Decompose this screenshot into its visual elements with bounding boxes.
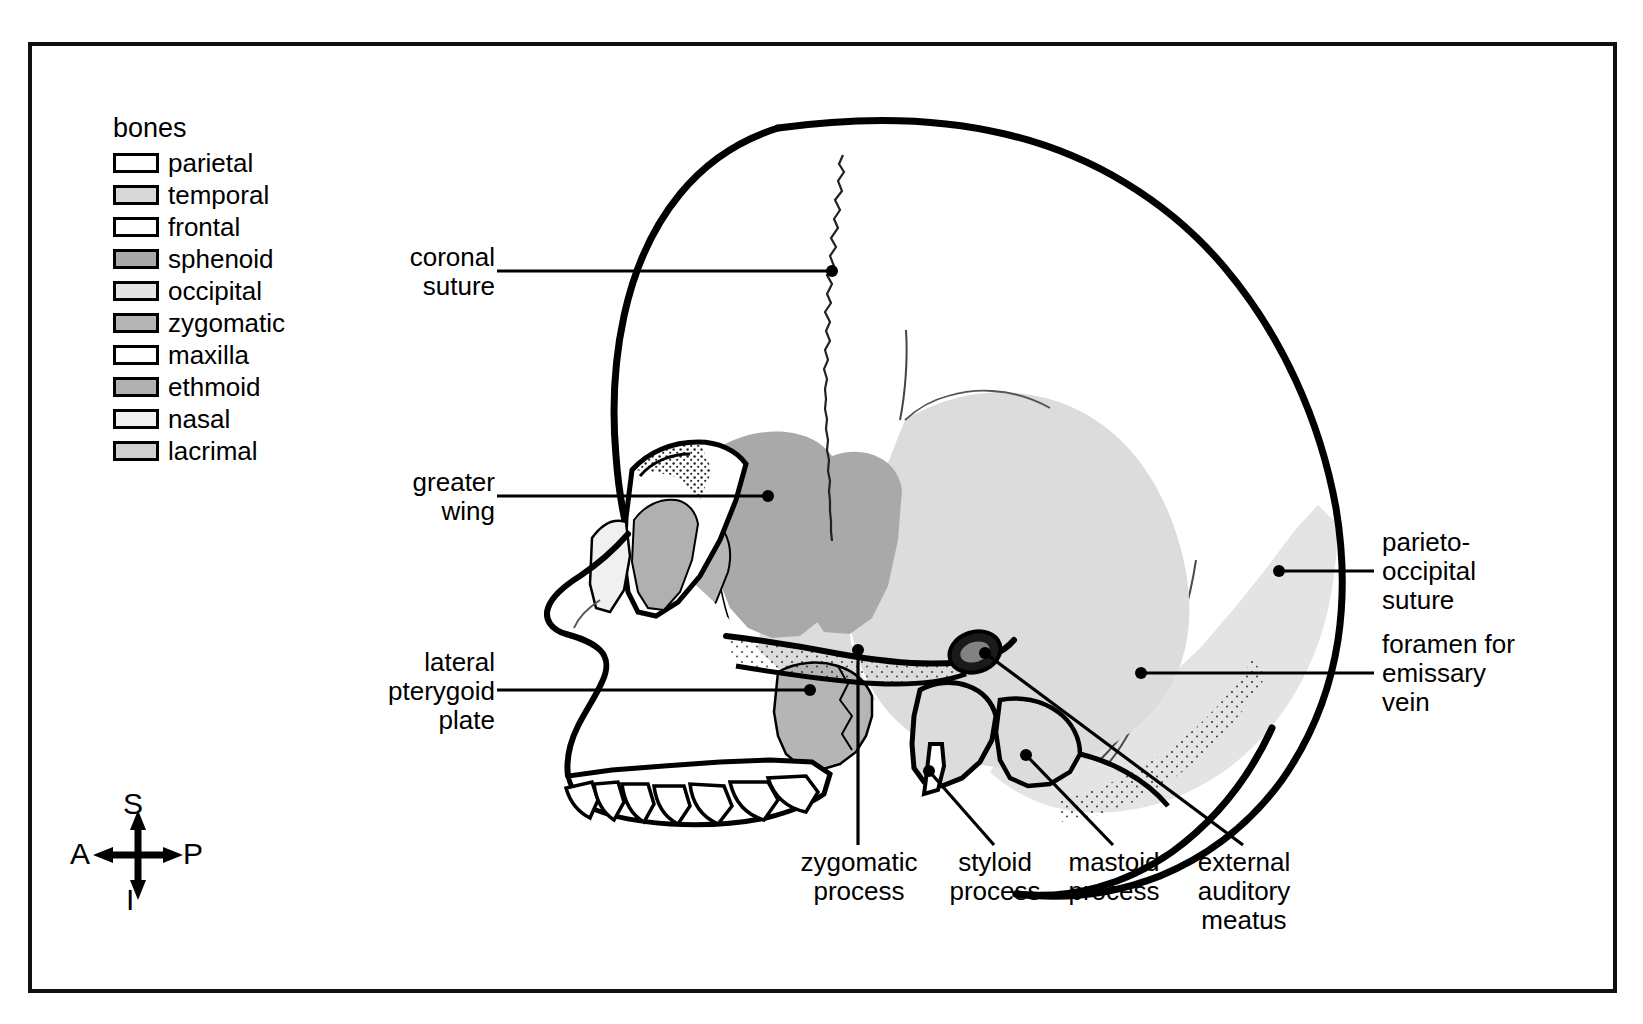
legend-item-nasal[interactable]: nasal bbox=[113, 403, 353, 435]
label-coronal-suture: coronal suture bbox=[295, 243, 495, 301]
legend-swatch-lacrimal bbox=[113, 441, 159, 461]
legend-label-zygomatic: zygomatic bbox=[168, 309, 285, 337]
label-parieto-occipital-suture: parieto- occipital suture bbox=[1382, 528, 1622, 615]
label-zygomatic-process: zygomatic process bbox=[786, 848, 932, 906]
legend-label-temporal: temporal bbox=[168, 181, 269, 209]
compass-label-superior: S bbox=[123, 788, 143, 820]
label-greater-wing: greater wing bbox=[295, 468, 495, 526]
legend-label-occipital: occipital bbox=[168, 277, 262, 305]
compass-label-anterior: A bbox=[70, 838, 90, 870]
legend-title: bones bbox=[113, 113, 353, 143]
squamosal-suture bbox=[900, 330, 907, 420]
compass-label-inferior: I bbox=[126, 884, 134, 916]
legend-label-ethmoid: ethmoid bbox=[168, 373, 261, 401]
legend-swatch-sphenoid bbox=[113, 249, 159, 269]
legend-label-nasal: nasal bbox=[168, 405, 230, 433]
label-lateral-pterygoid-plate: lateral pterygoid plate bbox=[275, 648, 495, 735]
legend-swatch-zygomatic bbox=[113, 313, 159, 333]
legend-label-lacrimal: lacrimal bbox=[168, 437, 258, 465]
compass-label-posterior: P bbox=[183, 838, 203, 870]
legend-swatch-maxilla bbox=[113, 345, 159, 365]
legend-label-maxilla: maxilla bbox=[168, 341, 249, 369]
legend-item-lacrimal[interactable]: lacrimal bbox=[113, 435, 353, 467]
legend-item-zygomatic[interactable]: zygomatic bbox=[113, 307, 353, 339]
legend-swatch-parietal bbox=[113, 153, 159, 173]
legend-label-frontal: frontal bbox=[168, 213, 240, 241]
legend-swatch-temporal bbox=[113, 185, 159, 205]
teeth-and-alveolar-ridge bbox=[566, 760, 830, 825]
legend-item-maxilla[interactable]: maxilla bbox=[113, 339, 353, 371]
legend-item-parietal[interactable]: parietal bbox=[113, 147, 353, 179]
label-external-auditory-meatus: external auditory meatus bbox=[1162, 848, 1326, 935]
legend-swatch-frontal bbox=[113, 217, 159, 237]
label-foramen-emissary-vein: foramen for emissary vein bbox=[1382, 630, 1622, 717]
label-styloid-process: styloid process bbox=[933, 848, 1057, 906]
legend-item-frontal[interactable]: frontal bbox=[113, 211, 353, 243]
legend-label-parietal: parietal bbox=[168, 149, 253, 177]
orientation-compass: S A P I bbox=[70, 788, 200, 900]
legend-label-sphenoid: sphenoid bbox=[168, 245, 274, 273]
legend-item-ethmoid[interactable]: ethmoid bbox=[113, 371, 353, 403]
skull-diagram-figure: bones parietal temporal frontal sphenoid… bbox=[0, 0, 1643, 1024]
legend-swatch-occipital bbox=[113, 281, 159, 301]
legend-swatch-ethmoid bbox=[113, 377, 159, 397]
legend-swatch-nasal bbox=[113, 409, 159, 429]
legend-item-temporal[interactable]: temporal bbox=[113, 179, 353, 211]
